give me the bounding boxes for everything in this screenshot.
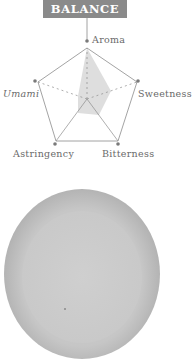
label-astringency: Astringency xyxy=(13,148,74,159)
sweetness-dot-icon xyxy=(136,79,140,83)
label-sweetness: Sweetness xyxy=(138,88,192,99)
umami-dot-icon xyxy=(33,79,37,83)
balance-radar-chart xyxy=(0,0,190,170)
bowl-speck xyxy=(64,308,66,310)
aroma-dot-icon xyxy=(85,39,89,43)
label-aroma: Aroma xyxy=(92,34,125,45)
astringency-dot-icon xyxy=(53,142,57,146)
tea-bowl-image xyxy=(4,189,160,359)
label-bitterness: Bitterness xyxy=(102,148,154,159)
bitterness-dot-icon xyxy=(116,142,120,146)
label-umami: Umami xyxy=(3,88,39,99)
tea-bowl-inner xyxy=(22,211,142,343)
